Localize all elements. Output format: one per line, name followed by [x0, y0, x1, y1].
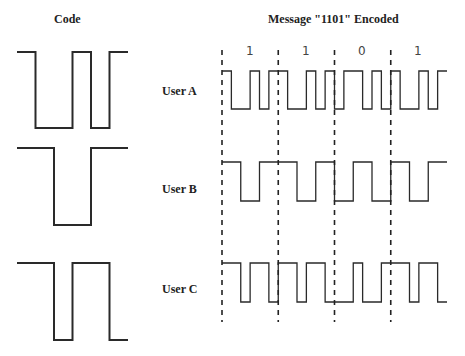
code-waveform-user-a [17, 52, 128, 128]
code-waveform-user-c [17, 263, 128, 340]
code-waveform-user-b [17, 148, 128, 225]
cdma-diagram [0, 0, 465, 356]
